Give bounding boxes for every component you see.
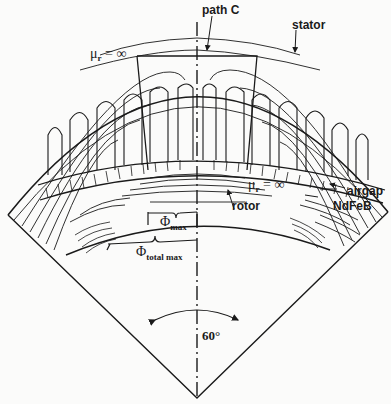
airgap-label: airgap (347, 184, 383, 198)
angle-label: 60° (202, 328, 220, 343)
mu-infinity-rotor-label: μr = ∞ (248, 177, 284, 194)
sector-outline (8, 97, 388, 398)
phi-total-bracket (107, 236, 197, 250)
phi-total-max-label: Φtotal max (136, 244, 183, 262)
path-c-label: path C (202, 3, 240, 17)
rotor-label: rotor (232, 199, 260, 213)
rotor-surface (66, 226, 330, 255)
mu-infinity-stator-label: μr = ∞ (90, 46, 126, 63)
ndfeb-hatch (75, 218, 325, 253)
ndfeb-label: NdFeB (333, 199, 372, 213)
machine-sector-diagram: path C stator μr = ∞ μr = ∞ airgap NdFeB… (0, 0, 391, 404)
phi-max-label: Φmax (160, 214, 187, 232)
stator-label: stator (292, 18, 326, 32)
